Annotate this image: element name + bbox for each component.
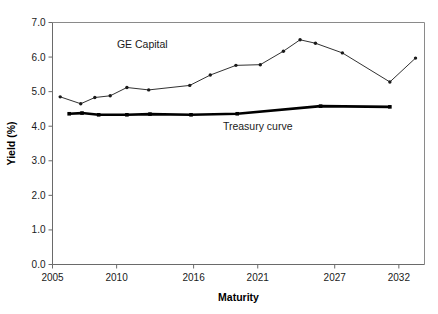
data-point	[298, 38, 301, 41]
y-tick-label: 3.0	[32, 155, 46, 166]
x-tick-label: 2016	[182, 272, 205, 283]
series-annotation-label: GE Capital	[117, 38, 168, 50]
x-tick-label: 2010	[106, 272, 129, 283]
x-axis-title: Maturity	[218, 291, 259, 303]
x-tick-label: 2005	[41, 272, 64, 283]
y-tick-label: 4.0	[32, 121, 46, 132]
data-point	[93, 96, 96, 99]
plot-border	[53, 23, 425, 265]
y-tick-label: 0.0	[32, 259, 46, 270]
data-point	[282, 49, 285, 52]
y-axis-tick-labels: 0.01.02.03.04.05.06.07.0	[32, 17, 46, 270]
data-point	[319, 104, 323, 108]
x-axis-tick-labels: 200520102016202120272032	[41, 272, 410, 283]
series-line	[60, 40, 415, 104]
data-point	[147, 88, 150, 91]
data-point	[189, 113, 193, 117]
data-point	[209, 73, 212, 76]
series-annotation-label: Treasury curve	[223, 120, 293, 132]
data-point	[188, 84, 191, 87]
data-point	[148, 112, 152, 116]
series-annotations: GE CapitalTreasury curve	[117, 38, 293, 132]
data-point	[58, 95, 61, 98]
series-line	[69, 106, 390, 115]
chart-canvas: 0.01.02.03.04.05.06.07.0 200520102016202…	[0, 0, 438, 314]
x-tick-label: 2032	[388, 272, 411, 283]
data-point	[414, 56, 417, 59]
y-axis-title: Yield (%)	[5, 122, 17, 166]
data-point	[235, 112, 239, 116]
data-point	[109, 94, 112, 97]
plot-frame	[53, 23, 425, 265]
data-point	[234, 64, 237, 67]
data-point	[97, 113, 101, 117]
data-point	[67, 112, 71, 116]
data-point	[341, 51, 344, 54]
y-tick-label: 7.0	[32, 17, 46, 28]
data-point	[388, 105, 392, 109]
x-tick-label: 2027	[324, 272, 347, 283]
y-tick-label: 2.0	[32, 190, 46, 201]
data-point	[79, 102, 82, 105]
data-point	[388, 80, 391, 83]
data-point	[80, 111, 84, 115]
data-point	[314, 42, 317, 45]
y-tick-label: 6.0	[32, 52, 46, 63]
y-tick-label: 1.0	[32, 224, 46, 235]
data-point	[125, 113, 129, 117]
y-axis-ticks	[49, 23, 53, 265]
series-treasury-curve	[67, 104, 391, 116]
data-series-layer	[58, 38, 417, 117]
x-axis-ticks	[53, 265, 399, 269]
data-point	[125, 86, 128, 89]
y-tick-label: 5.0	[32, 86, 46, 97]
data-point	[259, 63, 262, 66]
series-ge-capital	[58, 38, 417, 105]
x-tick-label: 2021	[247, 272, 270, 283]
yield-curve-chart: 0.01.02.03.04.05.06.07.0 200520102016202…	[0, 0, 438, 314]
